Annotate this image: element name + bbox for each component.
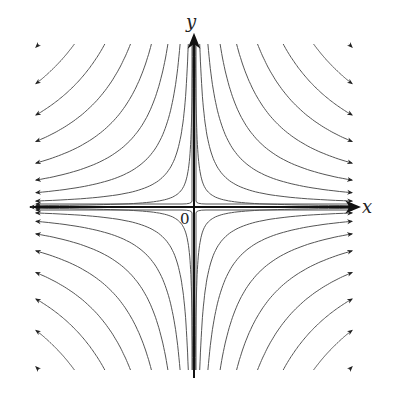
streamline [220,234,352,370]
phase-portrait-diagram: x y 0 [0,0,394,400]
streamline [314,44,352,84]
streamline [36,367,39,370]
streamline [36,44,168,180]
streamline [36,210,192,370]
streamline [36,299,105,370]
streamline [220,44,352,180]
streamline [36,44,193,206]
streamline [196,210,352,370]
streamline [283,299,352,370]
streamline [195,208,352,370]
streamline [36,221,180,370]
streamline [36,330,74,370]
streamline [208,221,352,370]
streamline [195,44,352,206]
streamline [36,44,131,142]
streamline [36,44,192,204]
streamline [258,44,353,142]
y-axis-label: y [185,11,197,32]
streamline [349,367,352,370]
streamline [314,330,352,370]
origin-label: 0 [180,210,190,228]
streamline [36,44,39,47]
streamline [258,273,353,371]
streamline [283,44,352,115]
streamline [36,44,74,84]
axes [30,36,358,378]
streamline [36,44,180,193]
streamline [36,273,131,371]
streamline [208,44,352,193]
x-axis-label: x [362,196,372,217]
streamline [349,44,352,47]
streamline [196,44,352,204]
streamline [36,208,193,370]
streamline [36,234,168,370]
streamline [36,44,105,115]
